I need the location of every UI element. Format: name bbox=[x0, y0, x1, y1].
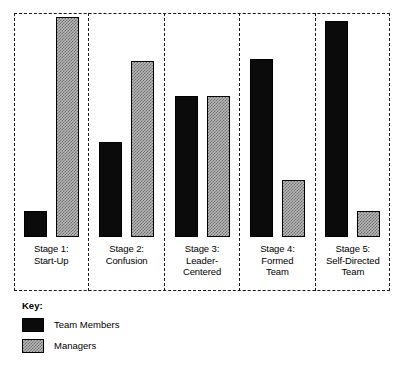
key-entry-managers: Managers bbox=[22, 337, 322, 354]
chart-key: Key: Team Members Managers bbox=[22, 300, 322, 358]
stage-label-1: Stage 1: Start-Up bbox=[14, 239, 88, 291]
stage-panel-2: Stage 2: Confusion bbox=[89, 13, 164, 291]
stage-bar-chart: Stage 1: Start-Up Stage 2: Confusion Sta… bbox=[0, 0, 407, 370]
bar-managers-5[interactable] bbox=[357, 211, 380, 237]
bars-area-5 bbox=[316, 13, 390, 239]
bar-managers-1[interactable] bbox=[56, 17, 79, 237]
bar-team-members-1[interactable] bbox=[24, 211, 47, 237]
key-label-managers: Managers bbox=[54, 340, 96, 352]
bars-area-3 bbox=[165, 13, 239, 239]
bars-area-2 bbox=[89, 13, 163, 239]
bar-team-members-3[interactable] bbox=[175, 96, 198, 237]
stage-panel-3: Stage 3: Leader- Centered bbox=[165, 13, 240, 291]
bar-managers-4[interactable] bbox=[282, 180, 305, 237]
swatch-team-members-icon bbox=[22, 318, 44, 332]
swatch-managers-icon bbox=[22, 339, 44, 353]
bar-managers-2[interactable] bbox=[131, 61, 154, 237]
bar-team-members-5[interactable] bbox=[325, 21, 348, 237]
bar-team-members-4[interactable] bbox=[250, 59, 273, 237]
stage-panel-4: Stage 4: Formed Team bbox=[240, 13, 315, 291]
stage-panels: Stage 1: Start-Up Stage 2: Confusion Sta… bbox=[14, 13, 390, 291]
stage-label-4: Stage 4: Formed Team bbox=[240, 239, 314, 291]
key-title: Key: bbox=[22, 300, 322, 312]
stage-panel-5: Stage 5: Self-Directed Team bbox=[316, 13, 390, 291]
bars-area-4 bbox=[240, 13, 314, 239]
bars-area-1 bbox=[14, 13, 88, 239]
stage-panel-1: Stage 1: Start-Up bbox=[14, 13, 89, 291]
key-entry-team-members: Team Members bbox=[22, 316, 322, 333]
key-label-team-members: Team Members bbox=[54, 319, 119, 331]
stage-label-3: Stage 3: Leader- Centered bbox=[165, 239, 239, 291]
bar-managers-3[interactable] bbox=[207, 96, 230, 237]
stage-label-2: Stage 2: Confusion bbox=[89, 239, 163, 291]
stage-label-5: Stage 5: Self-Directed Team bbox=[316, 239, 390, 291]
bar-team-members-2[interactable] bbox=[99, 142, 122, 237]
